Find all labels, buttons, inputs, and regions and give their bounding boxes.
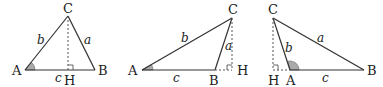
side-a-label: a	[317, 31, 324, 45]
triangle-obtuse-a: A B C H b a c	[268, 2, 377, 87]
vertex-c-label: C	[228, 2, 238, 17]
vertex-b-label: B	[98, 63, 108, 78]
vertex-a-label: A	[11, 63, 22, 78]
right-angle-marker	[68, 65, 73, 70]
right-angle-marker	[227, 65, 232, 70]
triangle-diagram: A B C H b a c A B C H b a c A B C H b	[0, 0, 383, 87]
side-c-label: c	[322, 71, 329, 85]
side-b-label: b	[37, 33, 45, 47]
triangle-acute: A B C H b a c	[11, 1, 108, 87]
foot-h-label: H	[237, 63, 248, 78]
right-angle-marker	[273, 65, 278, 70]
vertex-c-label: C	[268, 2, 278, 17]
side-b	[25, 16, 68, 70]
side-a-label: a	[84, 33, 91, 47]
side-b-label: b	[285, 41, 293, 55]
foot-h-label: H	[268, 73, 279, 87]
side-c-label: c	[173, 71, 180, 85]
vertex-b-label: B	[209, 73, 219, 87]
vertex-c-label: C	[63, 1, 73, 16]
side-c-label: c	[55, 71, 62, 85]
triangle-obtuse-b: A B C H b a c	[127, 2, 248, 87]
vertex-a-label: A	[285, 73, 296, 87]
vertex-b-label: B	[367, 63, 377, 78]
side-a-label: a	[225, 39, 232, 53]
side-b-label: b	[181, 31, 189, 45]
foot-h-label: H	[64, 73, 75, 87]
vertex-a-label: A	[127, 63, 138, 78]
